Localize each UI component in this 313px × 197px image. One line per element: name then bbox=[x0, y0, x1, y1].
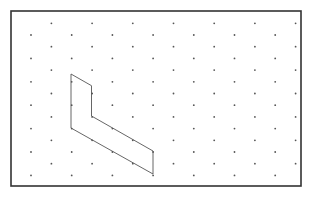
grid-dot bbox=[132, 93, 134, 95]
grid-dot bbox=[234, 58, 236, 60]
grid-dot bbox=[213, 46, 215, 48]
grid-dot bbox=[213, 69, 215, 71]
figure-frame bbox=[11, 11, 301, 186]
grid-dot bbox=[213, 22, 215, 24]
grid-dot bbox=[234, 128, 236, 130]
grid-dot bbox=[295, 93, 297, 95]
grid-dot bbox=[51, 163, 53, 165]
grid-dot bbox=[71, 34, 73, 36]
grid-dot bbox=[193, 151, 195, 153]
grid-dot bbox=[213, 139, 215, 141]
grid-dot bbox=[274, 58, 276, 60]
grid-dot bbox=[30, 104, 32, 106]
grid-dot bbox=[112, 175, 114, 177]
grid-dot bbox=[51, 116, 53, 118]
grid-dot bbox=[173, 46, 175, 48]
grid-dot bbox=[51, 139, 53, 141]
grid-dot bbox=[254, 139, 256, 141]
grid-dot bbox=[132, 22, 134, 24]
grid-dot bbox=[193, 58, 195, 60]
grid-dot bbox=[51, 46, 53, 48]
grid-dot bbox=[254, 22, 256, 24]
grid-dot bbox=[274, 34, 276, 36]
grid-dot bbox=[132, 46, 134, 48]
grid-dot bbox=[234, 151, 236, 153]
grid-dot bbox=[213, 163, 215, 165]
grid-dot bbox=[295, 139, 297, 141]
grid-dot bbox=[234, 81, 236, 83]
grid-dot bbox=[295, 22, 297, 24]
grid-dot bbox=[213, 93, 215, 95]
grid-dot bbox=[274, 151, 276, 153]
grid-dot bbox=[51, 69, 53, 71]
grid-dot bbox=[213, 116, 215, 118]
grid-dot bbox=[173, 163, 175, 165]
grid-dot bbox=[132, 69, 134, 71]
grid-dot bbox=[173, 116, 175, 118]
grid-dot bbox=[193, 128, 195, 130]
dot-grid bbox=[30, 22, 296, 176]
grid-dot bbox=[132, 116, 134, 118]
grid-dot bbox=[152, 128, 154, 130]
grid-dot bbox=[30, 34, 32, 36]
grid-dot bbox=[30, 81, 32, 83]
grid-dot bbox=[91, 163, 93, 165]
grid-dot bbox=[71, 151, 73, 153]
grid-dot bbox=[173, 139, 175, 141]
grid-dot bbox=[30, 58, 32, 60]
grid-dot bbox=[274, 104, 276, 106]
grid-dot bbox=[152, 175, 154, 177]
grid-dot bbox=[173, 93, 175, 95]
grid-dot bbox=[254, 93, 256, 95]
isometric-grid-figure bbox=[0, 0, 313, 197]
grid-dot bbox=[112, 81, 114, 83]
grid-dot bbox=[71, 58, 73, 60]
grid-dot bbox=[51, 22, 53, 24]
grid-dot bbox=[30, 175, 32, 177]
l-shape-polygon bbox=[71, 74, 153, 174]
grid-dot bbox=[152, 58, 154, 60]
grid-dot bbox=[295, 116, 297, 118]
grid-dot bbox=[254, 46, 256, 48]
grid-dot bbox=[91, 22, 93, 24]
grid-dot bbox=[112, 58, 114, 60]
grid-dot bbox=[234, 34, 236, 36]
grid-dot bbox=[254, 69, 256, 71]
grid-dot bbox=[173, 22, 175, 24]
grid-dot bbox=[193, 34, 195, 36]
grid-dot bbox=[193, 81, 195, 83]
grid-dot bbox=[295, 46, 297, 48]
grid-dot bbox=[112, 34, 114, 36]
grid-dot bbox=[234, 175, 236, 177]
grid-dot bbox=[295, 69, 297, 71]
grid-dot bbox=[274, 81, 276, 83]
grid-dot bbox=[254, 163, 256, 165]
grid-dot bbox=[193, 104, 195, 106]
grid-dot bbox=[274, 175, 276, 177]
grid-dot bbox=[71, 175, 73, 177]
grid-dot bbox=[274, 128, 276, 130]
grid-dot bbox=[173, 69, 175, 71]
grid-dot bbox=[51, 93, 53, 95]
grid-dot bbox=[152, 81, 154, 83]
grid-dot bbox=[193, 175, 195, 177]
grid-dot bbox=[91, 46, 93, 48]
grid-dot bbox=[91, 69, 93, 71]
grid-dot bbox=[234, 104, 236, 106]
grid-dot bbox=[152, 34, 154, 36]
grid-dot bbox=[112, 104, 114, 106]
grid-dot bbox=[254, 116, 256, 118]
grid-dot bbox=[295, 163, 297, 165]
grid-dot bbox=[152, 104, 154, 106]
grid-dot bbox=[30, 151, 32, 153]
grid-dot bbox=[30, 128, 32, 130]
